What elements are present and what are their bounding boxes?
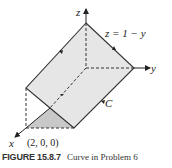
figure-diagram: z y x z = 1 − y C (2, 0, 0)	[0, 0, 172, 168]
caption-text: Curve in Problem 6	[67, 152, 138, 162]
point-label: (2, 0, 0)	[27, 137, 59, 149]
caption-number: FIGURE 15.8.7	[2, 152, 61, 162]
curve-label: C	[105, 97, 113, 109]
z-axis-label: z	[75, 6, 81, 18]
x-axis-label: x	[8, 137, 14, 149]
y-axis-label: y	[150, 62, 156, 74]
x-axis	[15, 128, 26, 137]
plane-equation-label: z = 1 − y	[104, 27, 146, 39]
figure-caption: FIGURE 15.8.7Curve in Problem 6	[2, 152, 138, 162]
